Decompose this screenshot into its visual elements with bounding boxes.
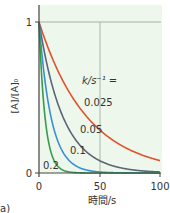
x-tick-label-0: 0 bbox=[36, 181, 42, 192]
legend-title: k/s⁻¹ = bbox=[82, 75, 117, 86]
label-k-0.05: 0.05 bbox=[80, 124, 102, 135]
x-tick-label-50: 50 bbox=[94, 181, 107, 192]
y-tick-label-0: 0 bbox=[26, 168, 32, 179]
panel-label: a) bbox=[0, 203, 10, 213]
label-k-0.025: 0.025 bbox=[84, 97, 113, 108]
label-k-0.1: 0.1 bbox=[70, 145, 86, 156]
chart: 1 0 0 50 100 時間/s [A]/[A]₀ k/s⁻¹ = 0.025… bbox=[0, 0, 170, 213]
x-axis-label: 時間/s bbox=[88, 195, 117, 206]
plot-background bbox=[39, 5, 162, 173]
y-tick-label-1: 1 bbox=[26, 17, 32, 28]
label-k-0.2: 0.2 bbox=[43, 160, 59, 171]
y-axis-label: [A]/[A]₀ bbox=[9, 78, 20, 113]
x-tick-label-100: 100 bbox=[150, 181, 169, 192]
